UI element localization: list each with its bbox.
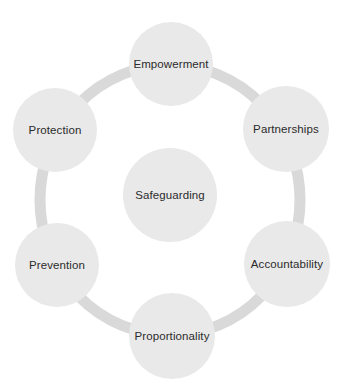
node-label: Accountability: [251, 258, 323, 270]
node-accountability: Accountability: [244, 221, 330, 307]
node-label: Prevention: [29, 259, 85, 271]
node-label: Safeguarding: [135, 189, 205, 201]
node-prevention: Prevention: [15, 223, 99, 307]
node-label: Proportionality: [134, 330, 209, 342]
node-label: Protection: [29, 124, 82, 136]
node-empowerment: Empowerment: [129, 22, 213, 106]
node-proportionality: Proportionality: [129, 293, 215, 379]
node-partnerships: Partnerships: [243, 86, 329, 172]
node-protection: Protection: [13, 88, 97, 172]
node-label: Empowerment: [133, 58, 208, 70]
node-center-safeguarding: Safeguarding: [123, 148, 217, 242]
safeguarding-principles-diagram: Safeguarding Empowerment Partnerships Ac…: [0, 0, 342, 392]
node-label: Partnerships: [253, 123, 319, 135]
